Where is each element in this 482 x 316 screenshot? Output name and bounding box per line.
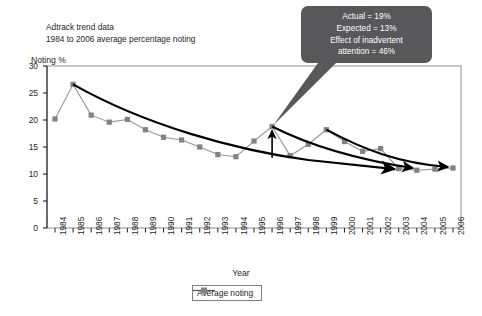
chart-legend: Average noting — [192, 285, 262, 301]
y-axis-tick-label: 5 — [16, 196, 38, 206]
x-axis-tick-label: 2003 — [402, 217, 411, 235]
callout-line-2: Expected = 13% — [305, 23, 428, 35]
x-axis-tick-label: 1997 — [294, 217, 303, 235]
y-axis-tick-label: 15 — [16, 142, 38, 152]
x-axis-tick-label: 2004 — [420, 217, 429, 235]
x-axis-tick-label: 2002 — [384, 217, 393, 235]
x-axis-tick-label: 2005 — [439, 217, 448, 235]
x-axis-tick-label: 1998 — [312, 217, 321, 235]
x-axis-tick-label: 1991 — [185, 217, 194, 235]
callout-line-3: Effect of inadvertent — [305, 35, 428, 47]
x-axis-tick-label: 1990 — [167, 217, 176, 235]
y-axis-tick-label: 30 — [16, 61, 38, 71]
x-axis-tick-label: 1994 — [240, 217, 249, 235]
y-axis-tick-label: 10 — [16, 169, 38, 179]
x-axis-tick-label: 1995 — [258, 217, 267, 235]
y-axis-tick-label: 25 — [16, 88, 38, 98]
x-axis-tick-label: 1988 — [131, 217, 140, 235]
callout-line-4: attention = 46% — [305, 46, 428, 58]
x-axis-tick-label: 2000 — [348, 217, 357, 235]
chart-figure: Adtrack trend data 1984 to 2006 average … — [0, 0, 482, 316]
x-axis-tick-label: 1986 — [95, 217, 104, 235]
callout-line-1: Actual = 19% — [305, 11, 428, 23]
x-axis-tick-label: 1999 — [330, 217, 339, 235]
x-axis-tick-label: 1993 — [221, 217, 230, 235]
x-axis-tick-label: 1996 — [276, 217, 285, 235]
x-axis-tick-label: 2001 — [366, 217, 375, 235]
x-axis-tick-label: 1992 — [203, 217, 212, 235]
x-axis-tick-label: 1985 — [77, 217, 86, 235]
x-axis-tick-label: 1987 — [113, 217, 122, 235]
callout-annotation: Actual = 19% Expected = 13% Effect of in… — [301, 6, 432, 63]
x-axis-tick-label: 1984 — [59, 217, 68, 235]
y-axis-tick-label: 0 — [16, 223, 38, 233]
x-axis-tick-label: 2006 — [457, 217, 466, 235]
y-axis-tick-label: 20 — [16, 115, 38, 125]
x-axis-tick-label: 1989 — [149, 217, 158, 235]
legend-marker-icon — [193, 286, 215, 295]
